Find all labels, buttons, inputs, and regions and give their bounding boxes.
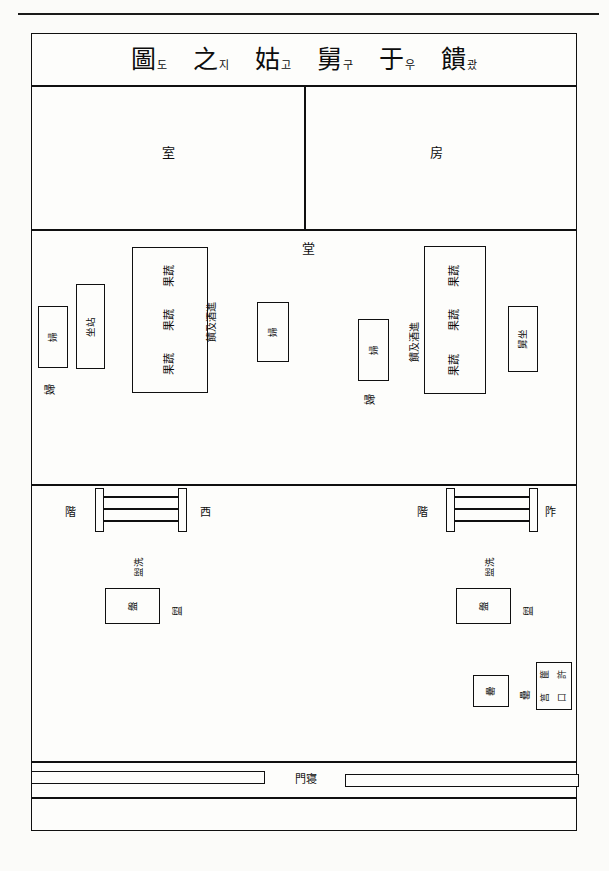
title-unit-1: 之 지 (193, 47, 229, 72)
right-attendant-side-label: 婦 (365, 394, 376, 405)
west-stair-tread-2 (103, 520, 179, 522)
east-stair-tread-0 (454, 496, 530, 498)
left-offering-row-0: 果蔬 (164, 265, 175, 287)
east-stair-tread-1 (454, 508, 530, 510)
right-attendant-box: 婦 (358, 319, 389, 381)
vessel-side-label: 罍 (521, 690, 531, 700)
right-basin-side-label: 盥 (524, 606, 534, 616)
right-seat-box: 舅坐 (508, 306, 538, 372)
rack-char-1: 許 (558, 670, 567, 679)
right-basin-box: 盤 (456, 588, 511, 624)
title-unit-0: 圖 도 (131, 47, 167, 72)
right-basin-box-label: 盤 (479, 601, 489, 611)
rack-char-2: 筥 (541, 693, 550, 702)
right-offering-row-2: 果蔬 (449, 354, 460, 376)
header-rule (18, 13, 599, 15)
rack-grid: 篚 許 筥 口 (537, 663, 571, 709)
room-hall-divider (32, 229, 576, 231)
title-kor-1: 지 (219, 60, 229, 71)
east-staircase (446, 488, 538, 532)
left-seat-box: 坐站 (76, 284, 105, 369)
left-bride-side-label: 婦 (45, 384, 56, 395)
title-kor-0: 도 (157, 60, 167, 71)
left-bride-box: 婦 (38, 306, 68, 368)
right-offering-side-label: 饋及酒進 (410, 322, 420, 362)
west-step-label-b: 西 (200, 503, 211, 519)
rack-char-3: 口 (558, 693, 567, 702)
east-step-label-b: 阼 (545, 503, 556, 519)
title-han-3: 舅 (317, 47, 342, 72)
left-offering-side-label: 饋及酒進 (207, 302, 217, 342)
left-attendant-box: 婦 (257, 302, 289, 362)
rack-box: 篚 許 筥 口 (536, 662, 572, 710)
right-offering-row-0: 果蔬 (449, 264, 460, 286)
room-label-bang: 房 (430, 146, 443, 159)
right-offering-box: 果蔬 果蔬 果蔬 (424, 246, 486, 394)
title-unit-2: 姑 고 (255, 47, 291, 72)
west-staircase (95, 488, 187, 532)
left-basin-box-label: 盤 (128, 601, 138, 611)
left-offering-stack: 果蔬 果蔬 果蔬 (133, 248, 207, 392)
west-stair-rail-right (178, 488, 187, 532)
east-step-label-a: 階 (417, 503, 428, 519)
right-seat-box-label: 舅坐 (518, 329, 528, 349)
title-unit-5: 饋 괐 (441, 47, 477, 72)
east-stair-rail-right (529, 488, 538, 532)
right-attendant-box-label: 婦 (369, 345, 379, 355)
left-seat-box-label: 坐站 (86, 317, 96, 337)
title-han-1: 之 (193, 47, 218, 72)
gate-wall-left (31, 771, 265, 784)
title-unit-4: 于 우 (379, 47, 415, 72)
diagram-frame: 圖 도 之 지 姑 고 舅 구 于 우 饋 괐 室 房 堂 婦 (31, 33, 577, 831)
title-han-4: 于 (379, 47, 404, 72)
left-basin-box: 盤 (105, 588, 160, 624)
room-divider (304, 85, 306, 229)
west-stair-tread-0 (103, 496, 179, 498)
east-stair-tread-2 (454, 520, 530, 522)
gate-wall-right (345, 774, 579, 787)
left-attendant-box-label: 婦 (268, 327, 278, 337)
title-kor-4: 우 (405, 60, 415, 71)
left-bride-box-label: 婦 (48, 332, 58, 342)
right-offering-row-1: 果蔬 (449, 309, 460, 331)
gate-label: 門寝 (295, 770, 317, 786)
left-basin-side-label: 盥 (173, 606, 183, 616)
right-offering-stack: 果蔬 果蔬 果蔬 (425, 247, 485, 393)
west-step-label-a: 階 (65, 503, 76, 519)
gate-bottom-divider (32, 797, 576, 799)
left-wash-label: 盥洗 (134, 557, 144, 577)
title-kor-2: 고 (281, 60, 291, 71)
rack-char-0: 篚 (541, 670, 550, 679)
left-offering-row-1: 果蔬 (164, 309, 175, 331)
title-han-0: 圖 (131, 47, 156, 72)
vessel-box-label: 罍 (486, 686, 496, 696)
title-unit-3: 舅 구 (317, 47, 353, 72)
vessel-box: 罍 (473, 675, 509, 707)
title-han-5: 饋 (441, 47, 466, 72)
figure-title: 圖 도 之 지 姑 고 舅 구 于 우 饋 괐 (32, 34, 576, 85)
title-han-2: 姑 (255, 47, 280, 72)
west-stair-rail-left (95, 488, 104, 532)
courtyard-gate-divider (32, 761, 576, 763)
left-offering-row-2: 果蔬 (164, 353, 175, 375)
east-stair-rail-left (446, 488, 455, 532)
title-kor-3: 구 (343, 60, 353, 71)
west-stair-tread-1 (103, 508, 179, 510)
hall-courtyard-divider (32, 484, 576, 486)
room-label-shil: 室 (162, 146, 175, 159)
left-offering-box: 果蔬 果蔬 果蔬 (132, 247, 208, 393)
right-wash-label: 盥洗 (485, 557, 495, 577)
title-kor-5: 괐 (467, 60, 477, 71)
room-label-dang: 堂 (302, 242, 315, 255)
